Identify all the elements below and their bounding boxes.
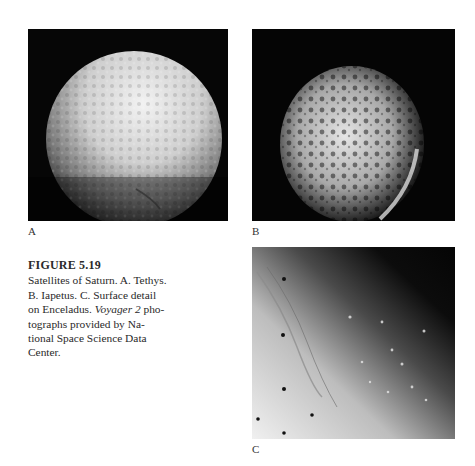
panel-label-b: B <box>252 225 259 237</box>
tethys-image <box>28 29 228 221</box>
caption-text: Satellites of Saturn. A. Tethys. B. Iape… <box>28 273 228 359</box>
panel-label-c: C <box>252 443 259 455</box>
enceladus-image <box>252 247 455 439</box>
photo-enceladus-surface <box>252 247 455 439</box>
iapetus-image <box>252 29 455 221</box>
photo-tethys <box>28 29 228 221</box>
photo-iapetus <box>252 29 455 221</box>
figure-number: FIGURE 5.19 <box>28 258 228 272</box>
figure-caption: FIGURE 5.19 Satellites of Saturn. A. Tet… <box>28 258 228 360</box>
panel-label-a: A <box>28 225 36 237</box>
spacecraft-name: Voyager 2 <box>95 303 141 315</box>
